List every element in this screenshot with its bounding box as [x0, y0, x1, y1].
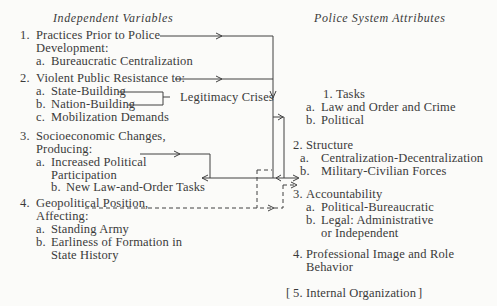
iv-2c-label: c.: [36, 111, 45, 124]
attr-4-title-line2: Behavior: [306, 261, 353, 274]
right-column-header: Police System Attributes: [314, 12, 446, 25]
iv-2c-text: Mobilization Demands: [51, 111, 169, 124]
iv-1a-label: a.: [36, 55, 45, 68]
attr-1b-text: Political: [321, 114, 364, 127]
left-column-header: Independent Variables: [53, 12, 173, 25]
attr-5-title: Internal Organization: [306, 287, 416, 300]
legitimacy-crises-label: Legitimacy Crises: [180, 91, 274, 104]
iv-1a-text: Bureaucratic Centralization: [51, 55, 193, 68]
iv-4b-label: b.: [36, 236, 46, 249]
attr-5-num: 5.: [293, 287, 303, 300]
iv-4-num: 4.: [20, 197, 30, 210]
iv-3-num: 3.: [20, 130, 30, 143]
iv-3b-text: New Law-and-Order Tasks: [66, 181, 205, 194]
iv-4b-text-line2: State History: [51, 249, 119, 262]
attr-3b-text-line2: or Independent: [321, 227, 398, 240]
attr-5-close-bracket: ]: [418, 287, 422, 300]
iv-1-num: 1.: [20, 29, 30, 42]
diagram-canvas: Independent Variables Police System Attr…: [0, 0, 497, 306]
attr-2b-label: b.: [300, 165, 310, 178]
attr-1b-label: b.: [306, 114, 316, 127]
iv-2-num: 2.: [20, 72, 30, 85]
attr-3b-label: b.: [306, 214, 316, 227]
iv-3a-label: a.: [36, 156, 45, 169]
attr-2b-text: Military-Civilian Forces: [321, 165, 446, 178]
iv-3b-label: b.: [51, 181, 61, 194]
attr-3-num: 3.: [293, 188, 303, 201]
attr-5-open-bracket: [: [286, 287, 290, 300]
attr-4-num: 4.: [293, 248, 303, 261]
